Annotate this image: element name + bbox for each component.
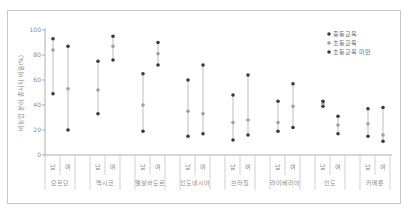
point-secondary	[141, 72, 145, 76]
sex-label: 여	[200, 163, 206, 171]
sex-label: 남	[50, 163, 56, 170]
sex-label: 여	[245, 163, 251, 171]
point-primary	[96, 88, 100, 92]
point-secondary	[276, 99, 280, 103]
point-below-primary	[186, 134, 190, 138]
point-primary	[291, 104, 295, 108]
sex-label: 남	[95, 163, 101, 170]
point-secondary	[366, 107, 370, 111]
point-secondary	[96, 59, 100, 63]
point-secondary	[246, 73, 250, 77]
sex-label: 남	[230, 163, 236, 170]
point-primary	[51, 48, 55, 52]
point-below-primary	[291, 126, 295, 130]
sex-label: 남	[320, 163, 326, 170]
point-primary	[246, 118, 250, 122]
sex-label: 여	[155, 163, 161, 171]
sex-label: 남	[185, 163, 191, 170]
y-axis-label: 비농업 분야 종사자 비율(%)	[17, 55, 25, 131]
point-primary	[276, 121, 280, 125]
y-tick-label: 40	[33, 101, 41, 108]
point-secondary	[186, 78, 190, 82]
sex-label: 여	[290, 163, 296, 171]
point-secondary	[381, 106, 385, 110]
y-tick-label: 60	[33, 76, 41, 83]
point-secondary	[111, 34, 115, 38]
point-below-primary	[381, 139, 385, 143]
legend-marker	[327, 32, 331, 36]
legend-label: 초등교육 미만	[333, 48, 371, 56]
point-primary	[201, 112, 205, 116]
dot-range-chart: 020406080100 남여요르단남여멕시코남여엘살바도르남여인도네시아남여브…	[0, 0, 405, 212]
point-secondary	[231, 93, 235, 97]
country-label: 카메룬	[366, 179, 384, 187]
country-label: 브라질	[231, 179, 249, 187]
sex-label: 여	[110, 163, 116, 171]
point-below-primary	[231, 138, 235, 142]
point-secondary	[201, 63, 205, 67]
legend: 중등교육초등교육초등교육 미만	[327, 30, 371, 56]
x-axis-categories: 남여요르단남여멕시코남여엘살바도르남여인도네시아남여브라질남여라이베리아남여인도…	[45, 155, 390, 190]
country-label: 인도	[324, 179, 336, 186]
y-tick-label: 0	[37, 151, 41, 158]
sex-label: 여	[380, 163, 386, 171]
y-tick-label: 20	[33, 126, 41, 133]
point-below-primary	[201, 132, 205, 136]
point-secondary	[336, 114, 340, 118]
point-primary	[66, 87, 70, 91]
sex-label: 여	[335, 163, 341, 171]
point-below-primary	[51, 92, 55, 96]
legend-label: 중등교육	[333, 30, 357, 38]
point-primary	[366, 122, 370, 126]
sex-label: 여	[65, 163, 71, 171]
point-primary	[381, 133, 385, 137]
country-label: 멕시코	[96, 179, 114, 187]
point-below-primary	[66, 128, 70, 132]
country-label: 라이베리아	[270, 179, 300, 187]
point-primary	[156, 52, 160, 56]
country-label: 요르단	[51, 179, 69, 186]
legend-marker	[327, 41, 331, 45]
point-secondary	[66, 44, 70, 48]
point-below-primary	[141, 129, 145, 133]
country-label: 엘살바도르	[135, 179, 165, 187]
sex-label: 남	[365, 163, 371, 170]
point-primary	[141, 103, 145, 107]
point-below-primary	[366, 134, 370, 138]
point-below-primary	[246, 133, 250, 137]
y-tick-label: 80	[33, 51, 41, 58]
point-secondary	[51, 37, 55, 41]
point-primary	[186, 109, 190, 113]
point-below-primary	[156, 63, 160, 67]
y-tick-label: 100	[30, 26, 42, 33]
point-primary	[231, 121, 235, 125]
point-secondary	[321, 99, 325, 103]
country-label: 인도네시아	[180, 179, 210, 187]
point-secondary	[156, 41, 160, 45]
point-below-primary	[276, 129, 280, 133]
point-primary	[111, 44, 115, 48]
legend-label: 초등교육	[333, 39, 357, 47]
sex-label: 남	[140, 163, 146, 170]
legend-marker	[327, 50, 331, 54]
point-below-primary	[111, 58, 115, 62]
point-secondary	[291, 82, 295, 86]
point-primary	[336, 123, 340, 127]
point-below-primary	[96, 112, 100, 116]
sex-label: 남	[275, 163, 281, 170]
point-below-primary	[336, 132, 340, 136]
